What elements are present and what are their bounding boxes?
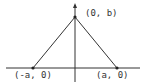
y-axis-arrow-icon	[73, 3, 77, 8]
triangle-left-side	[33, 17, 75, 68]
point-top	[73, 15, 76, 18]
triangle-right-side	[75, 17, 117, 68]
label-right-point: (a, 0)	[96, 70, 129, 80]
label-left-point: (-a, 0)	[14, 70, 52, 80]
triangle-diagram: (0, b) (-a, 0) (a, 0)	[0, 0, 143, 82]
label-top-point: (0, b)	[85, 8, 118, 18]
